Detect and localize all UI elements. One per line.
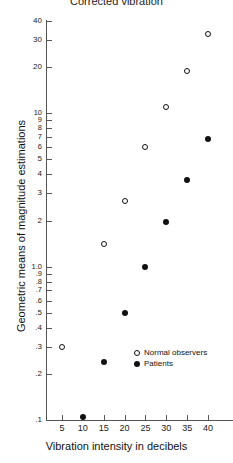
y-tick [47, 328, 52, 329]
y-tick [47, 159, 52, 160]
y-tick [47, 374, 52, 375]
data-point [163, 219, 169, 225]
y-tick [47, 67, 52, 68]
y-tick [47, 120, 52, 121]
x-tick [125, 415, 126, 420]
y-tick-label: 20 [18, 63, 42, 71]
plot-area: .1.2.3.4.5.6.7.8.91.02345678910203040 51… [0, 0, 233, 463]
y-tick [47, 193, 52, 194]
y-tick [47, 21, 52, 22]
x-tick-label: 15 [94, 423, 114, 433]
data-point [142, 264, 148, 270]
y-tick [47, 347, 52, 348]
x-axis-label: Vibration intensity in decibels [0, 440, 233, 452]
y-tick-label: .1 [18, 416, 42, 424]
y-tick [47, 290, 52, 291]
y-tick [47, 147, 52, 148]
y-axis-label: Geometric means of magnitude estimations [15, 101, 27, 351]
y-tick [47, 301, 52, 302]
legend-item-patients: Patients [134, 358, 207, 369]
x-tick-label: 35 [177, 423, 197, 433]
y-tick [47, 274, 52, 275]
x-tick-label: 30 [156, 423, 176, 433]
data-point [205, 136, 211, 142]
data-point [184, 177, 190, 183]
y-tick [47, 174, 52, 175]
x-tick-label: 25 [135, 423, 155, 433]
data-point [122, 310, 128, 316]
y-tick [47, 313, 52, 314]
y-tick [47, 221, 52, 222]
data-point [184, 68, 190, 74]
x-tick-label: 20 [115, 423, 135, 433]
data-point [59, 344, 65, 350]
x-tick-label: 5 [52, 423, 72, 433]
chart-legend: Normal observers Patients [134, 347, 207, 369]
x-tick [187, 415, 188, 420]
open-circle-marker-icon [134, 350, 140, 356]
x-tick-label: 10 [73, 423, 93, 433]
y-tick [47, 113, 52, 114]
x-axis-line [46, 420, 233, 421]
legend-label: Patients [144, 359, 173, 368]
data-point [101, 359, 107, 365]
scatter-chart: Corrected vibration .1.2.3.4.5.6.7.8.91.… [0, 0, 233, 463]
data-point [142, 144, 148, 150]
legend-item-normal-observers: Normal observers [134, 347, 207, 358]
x-tick [62, 415, 63, 420]
x-tick [145, 415, 146, 420]
data-point [205, 31, 211, 37]
x-tick [166, 415, 167, 420]
data-point [80, 414, 86, 420]
data-point [101, 241, 107, 247]
y-tick [47, 128, 52, 129]
y-tick [47, 267, 52, 268]
data-point [163, 104, 169, 110]
y-tick-label: 40 [18, 17, 42, 25]
y-tick [47, 40, 52, 41]
filled-circle-marker-icon [134, 361, 140, 367]
data-point [122, 198, 128, 204]
y-tick [47, 282, 52, 283]
legend-label: Normal observers [144, 348, 207, 357]
x-tick [208, 415, 209, 420]
y-tick [47, 137, 52, 138]
y-tick-label: .2 [18, 370, 42, 378]
y-tick-label: 30 [18, 36, 42, 44]
y-tick [47, 420, 52, 421]
x-tick-label: 40 [198, 423, 218, 433]
x-tick [104, 415, 105, 420]
